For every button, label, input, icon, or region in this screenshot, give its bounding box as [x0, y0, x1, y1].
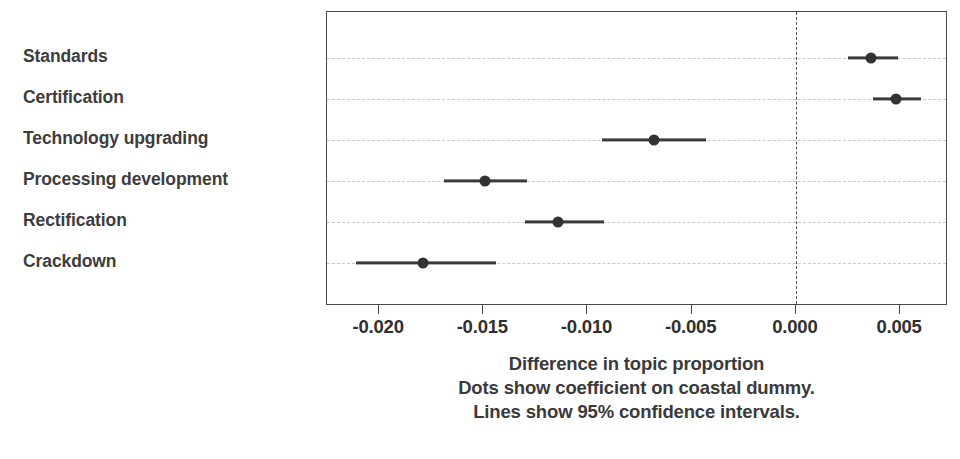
- x-axis-tick-label: 0.000: [772, 316, 817, 338]
- gridline: [327, 99, 946, 100]
- caption-lines-note: Lines show 95% confidence intervals.: [326, 400, 947, 424]
- y-axis-tick-label: Processing development: [23, 171, 323, 189]
- estimate-dot: [649, 135, 660, 146]
- caption-block: Difference in topic proportion Dots show…: [326, 352, 947, 424]
- x-axis-tick-mark: [378, 305, 379, 314]
- x-axis-tick-mark: [691, 305, 692, 314]
- y-axis-tick-label: Crackdown: [23, 253, 323, 271]
- coefficient-plot-figure: StandardsCertificationTechnology upgradi…: [0, 0, 960, 459]
- x-axis-tick-label: -0.015: [457, 316, 508, 338]
- y-axis-tick-label: Technology upgrading: [23, 130, 323, 148]
- x-axis-tick-mark: [586, 305, 587, 314]
- caption-dots-note: Dots show coefficient on coastal dummy.: [326, 376, 947, 400]
- y-axis-tick-label: Certification: [23, 89, 323, 107]
- estimate-dot: [890, 94, 901, 105]
- y-axis-labels: StandardsCertificationTechnology upgradi…: [0, 0, 320, 320]
- x-axis-tick-mark: [482, 305, 483, 314]
- y-axis-tick-label: Standards: [23, 48, 323, 66]
- x-axis-title: Difference in topic proportion: [326, 352, 947, 376]
- x-axis-tick-label: 0.005: [876, 316, 921, 338]
- gridline: [327, 181, 946, 182]
- estimate-dot: [865, 53, 876, 64]
- x-axis: -0.020-0.015-0.010-0.0050.0000.005: [326, 305, 947, 351]
- plot-panel: [326, 11, 947, 305]
- estimate-dot: [417, 258, 428, 269]
- x-axis-tick-mark: [795, 305, 796, 314]
- zero-reference-line: [796, 12, 797, 304]
- confidence-interval-line: [525, 220, 604, 223]
- x-axis-tick-mark: [899, 305, 900, 314]
- estimate-dot: [553, 217, 564, 228]
- gridline: [327, 222, 946, 223]
- x-axis-tick-label: -0.005: [665, 316, 716, 338]
- y-axis-tick-label: Rectification: [23, 212, 323, 230]
- estimate-dot: [480, 176, 491, 187]
- x-axis-tick-label: -0.010: [561, 316, 612, 338]
- x-axis-tick-label: -0.020: [352, 316, 403, 338]
